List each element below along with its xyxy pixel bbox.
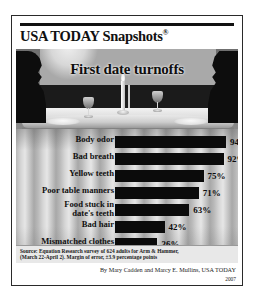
bar-value-label: 92%	[228, 154, 238, 165]
wine-glass-2	[152, 91, 163, 113]
bar-category-label: Poor table manners	[16, 186, 114, 195]
bar-track: 63%	[115, 204, 233, 216]
plate-right	[174, 118, 208, 125]
bar-row: Food stuck in date's teeth63%	[16, 203, 238, 218]
bar-track: 71%	[115, 187, 233, 199]
window-band	[40, 85, 216, 109]
bar-value-label: 63%	[193, 205, 211, 216]
bar-category-label: Body odor	[16, 135, 114, 144]
plate-left	[46, 118, 80, 125]
candle-stick	[121, 81, 125, 111]
bar-value-label: 75%	[208, 171, 226, 182]
graphic-frame: USA TODAY Snapshots®	[11, 15, 243, 286]
header-rule	[20, 23, 234, 26]
bar-track: 92%	[115, 153, 233, 165]
bar-category-label: Yellow teeth	[16, 169, 114, 178]
wine-glass-1	[83, 97, 94, 119]
bar	[115, 153, 224, 165]
bar-track: 75%	[115, 170, 233, 182]
bar-value-label: 94%	[230, 137, 238, 148]
bar-category-label: Food stuck in date's teeth	[16, 200, 114, 217]
bar-row: Yellow teeth75%	[16, 169, 238, 184]
bar-track: 94%	[115, 136, 233, 148]
registered-trademark-icon: ®	[163, 28, 169, 37]
glass-foot	[84, 115, 93, 118]
bar	[115, 170, 204, 182]
bar	[115, 187, 199, 199]
bar-value-label: 71%	[203, 188, 221, 199]
chart-headline: First date turnoffs	[16, 61, 238, 78]
bar-category-label: Bad hair	[16, 220, 114, 229]
bar-track: 42%	[115, 221, 233, 233]
source-line-2: (March 22-April 2). Margin of error, ±3.…	[20, 254, 234, 260]
bar-row: Bad hair42%	[16, 220, 238, 235]
bar-rows: Body odor94%Bad breath92%Yellow teeth75%…	[16, 135, 238, 248]
candle-icon	[120, 79, 126, 123]
bar	[115, 204, 189, 216]
source-note: Source: Equation Research survey of 624 …	[16, 245, 238, 263]
page-title: USA TODAY Snapshots®	[20, 28, 234, 48]
bar-category-label: Bad breath	[16, 152, 114, 161]
byline-year: 2007	[100, 275, 236, 283]
header-title-text: USA TODAY Snapshots	[20, 28, 163, 44]
illustration-panel: First date turnoffs	[16, 49, 238, 133]
bar-value-label: 42%	[169, 222, 187, 233]
bar	[115, 136, 226, 148]
glass-foot	[153, 109, 162, 112]
bar-chart: Body odor94%Bad breath92%Yellow teeth75%…	[16, 129, 238, 248]
byline: By Mary Cadden and Marcy E. Mullins, USA…	[100, 266, 236, 283]
candle-base	[117, 110, 129, 115]
bar-row: Poor table manners71%	[16, 186, 238, 201]
bar-row: Body odor94%	[16, 135, 238, 150]
bar-row: Bad breath92%	[16, 152, 238, 167]
bar	[115, 221, 165, 233]
byline-credit: By Mary Cadden and Marcy E. Mullins, USA…	[100, 266, 236, 273]
snapshot-graphic: USA TODAY Snapshots®	[0, 0, 254, 296]
